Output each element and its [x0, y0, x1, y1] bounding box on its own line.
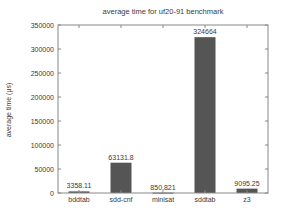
value-label: 324664: [193, 28, 216, 35]
x-tick-label: bddtab: [68, 196, 90, 203]
y-tick-label: 350000: [31, 22, 54, 29]
value-label: 3358.11: [67, 182, 92, 189]
value-label: 63131.8: [108, 154, 133, 161]
y-tick-label: 0: [50, 190, 54, 197]
bar-sddtab: [195, 37, 216, 193]
value-label: 9095.25: [234, 180, 259, 187]
y-tick-label: 50000: [35, 166, 55, 173]
y-tick-label: 250000: [31, 70, 54, 77]
x-tick-label: sdd-cnf: [110, 196, 133, 203]
y-axis-label: average time (μs): [5, 83, 13, 138]
y-tick-label: 100000: [31, 142, 54, 149]
bar-sdd-cnf: [111, 163, 132, 193]
y-axis-ticks: 0500001000001500002000002500003000003500…: [31, 22, 268, 197]
bars: 3358.1163131.8850.8213246649095.25: [67, 28, 260, 193]
y-tick-label: 150000: [31, 118, 54, 125]
y-tick-label: 200000: [31, 94, 54, 101]
x-axis-ticks: bddtabsdd-cnfminisatsddtabz3: [68, 25, 251, 203]
x-tick-label: sddtab: [194, 196, 215, 203]
bar-chart: average time for uf20-91 benchmark avera…: [0, 0, 285, 216]
x-tick-label: minisat: [152, 196, 174, 203]
y-tick-label: 300000: [31, 46, 54, 53]
chart-title: average time for uf20-91 benchmark: [103, 7, 224, 16]
value-label: 850.821: [150, 184, 175, 191]
plot-frame: [58, 25, 268, 193]
x-tick-label: z3: [243, 196, 251, 203]
